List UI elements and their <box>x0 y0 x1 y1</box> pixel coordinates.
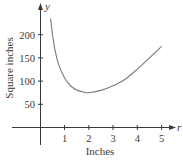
x-tick-label-5: 5 <box>159 133 164 144</box>
y-axis-title: Square inches <box>3 37 15 98</box>
x-tick-label-2: 2 <box>86 133 91 144</box>
x-axis-variable: r <box>177 121 182 133</box>
y-tick-label-150: 150 <box>19 53 35 64</box>
y-axis-variable: y <box>44 0 50 12</box>
y-tick-label-200: 200 <box>19 30 35 41</box>
x-axis-arrow-icon <box>169 125 176 130</box>
chart: y r 50 100 150 200 1 2 3 4 5 Inches Squa… <box>0 0 183 161</box>
x-tick-label-4: 4 <box>135 133 141 144</box>
x-tick-label-1: 1 <box>62 133 67 144</box>
y-tick-label-100: 100 <box>19 76 35 87</box>
y-tick-label-50: 50 <box>25 99 36 110</box>
y-axis-arrow-icon <box>38 3 43 10</box>
data-curve <box>51 18 162 92</box>
x-tick-label-3: 3 <box>110 133 115 144</box>
x-axis-title: Inches <box>86 145 115 157</box>
